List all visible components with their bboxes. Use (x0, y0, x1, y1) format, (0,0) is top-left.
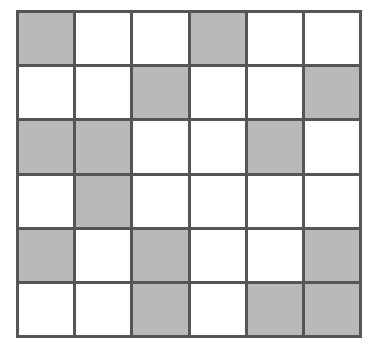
grid-cell-r4-c2-shaded (133, 230, 187, 281)
grid-cell-r5-c4-shaded (248, 284, 302, 335)
grid-cell-r0-c1-empty (76, 13, 130, 64)
grid-cell-r4-c3-empty (191, 230, 245, 281)
grid-cell-r3-c4-empty (248, 176, 302, 227)
grid-cell-r1-c3-empty (191, 67, 245, 118)
grid-cell-r2-c3-empty (191, 121, 245, 172)
grid-cell-r4-c1-empty (76, 230, 130, 281)
grid-cell-r3-c3-empty (191, 176, 245, 227)
grid-cell-r0-c0-shaded (19, 13, 73, 64)
grid-cell-r4-c4-empty (248, 230, 302, 281)
grid-cell-r5-c2-shaded (133, 284, 187, 335)
grid-cell-r3-c1-shaded (76, 176, 130, 227)
grid-cell-r0-c4-empty (248, 13, 302, 64)
grid-cell-r2-c1-shaded (76, 121, 130, 172)
grid-cell-r3-c2-empty (133, 176, 187, 227)
grid-cell-r1-c0-empty (19, 67, 73, 118)
grid-cell-r0-c5-empty (305, 13, 359, 64)
grid-cell-r2-c4-shaded (248, 121, 302, 172)
grid-cell-r2-c5-empty (305, 121, 359, 172)
grid-cell-r4-c0-shaded (19, 230, 73, 281)
grid-cell-r1-c4-empty (248, 67, 302, 118)
shaded-grid (16, 10, 362, 338)
grid-cell-r2-c2-empty (133, 121, 187, 172)
grid-cell-r5-c0-empty (19, 284, 73, 335)
grid-cell-r2-c0-shaded (19, 121, 73, 172)
grid-cell-r1-c1-empty (76, 67, 130, 118)
grid-cell-r1-c2-shaded (133, 67, 187, 118)
grid-cell-r3-c0-empty (19, 176, 73, 227)
grid-cell-r5-c5-shaded (305, 284, 359, 335)
grid-cell-r0-c3-shaded (191, 13, 245, 64)
grid-cell-r0-c2-empty (133, 13, 187, 64)
grid-cell-r5-c3-empty (191, 284, 245, 335)
grid-cell-r3-c5-empty (305, 176, 359, 227)
grid-cell-r4-c5-shaded (305, 230, 359, 281)
grid-cell-r5-c1-empty (76, 284, 130, 335)
grid-cell-r1-c5-shaded (305, 67, 359, 118)
